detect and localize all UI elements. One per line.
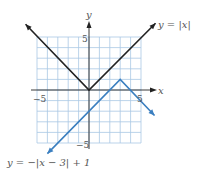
series-lines	[26, 23, 156, 153]
legend-blue-series: y = −|x − 3| + 1	[6, 157, 90, 169]
y-axis-arrow-icon	[87, 21, 92, 28]
y-axis-label: y	[85, 9, 92, 20]
series-line-abs-x	[26, 23, 156, 90]
legend-black-series: y = |x|	[157, 19, 191, 31]
plot-area: y x −5 5 5 −5 y = |x| y = −|x − 3| + 1	[0, 0, 201, 176]
series-line-shifted-abs	[47, 79, 154, 153]
y-tick-max: 5	[82, 34, 88, 44]
x-tick-max: 5	[137, 94, 143, 104]
x-axis-label: x	[158, 85, 164, 96]
x-axis-arrow-icon	[150, 88, 157, 93]
graph-figure: y x −5 5 5 −5 y = |x| y = −|x − 3| + 1	[0, 0, 201, 176]
x-tick-min: −5	[33, 94, 47, 104]
y-tick-min: −5	[76, 140, 90, 150]
